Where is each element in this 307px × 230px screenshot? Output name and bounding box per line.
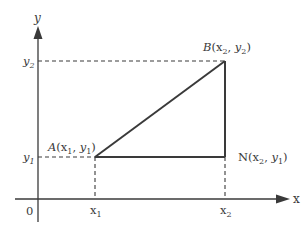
- point-n-label: N(x2, y1): [238, 150, 288, 166]
- y2-tick-label: y2: [22, 54, 35, 70]
- segment-ab: [95, 61, 225, 157]
- point-a-label: A(x1, y1): [47, 140, 96, 156]
- origin-label: 0: [26, 204, 33, 218]
- x1-tick-label: x1: [90, 203, 102, 219]
- x-axis-label: x: [293, 192, 300, 206]
- x-axis-arrow-icon: [276, 195, 290, 204]
- y1-tick-label: y1: [22, 150, 35, 166]
- y-axis-arrow-icon: [34, 26, 43, 39]
- y-axis-label: y: [33, 11, 41, 25]
- point-b-label: B(x2, y2): [202, 40, 251, 56]
- x2-tick-label: x2: [220, 203, 232, 219]
- coordinate-diagram: y x 0 y2 y1 x1 x2 A(x1, y1) B(x2, y2) N(…: [0, 0, 307, 230]
